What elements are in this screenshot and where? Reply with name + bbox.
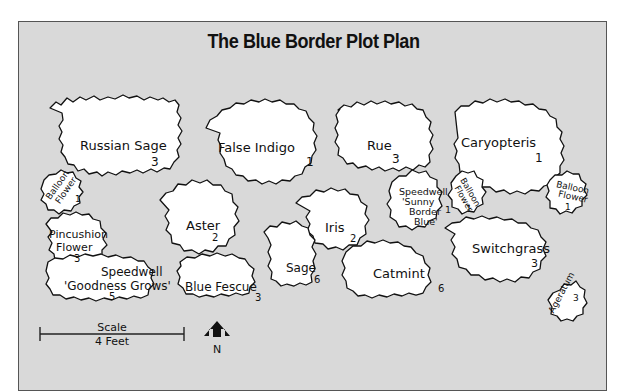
label-rue: Rue	[367, 138, 392, 153]
label-switchgrass: Switchgrass	[472, 241, 550, 256]
label-speedwell-sunny-4: Blue'	[414, 216, 438, 227]
compass-label: N	[213, 343, 221, 356]
count-switchgrass: 3	[531, 257, 538, 270]
label-iris: Iris	[325, 220, 345, 235]
plant-russian-sage	[50, 95, 182, 176]
north-arrow-shaft	[213, 328, 221, 337]
label-blue-fescue: Blue Fescue	[185, 280, 257, 294]
label-caryopteris: Caryopteris	[461, 135, 536, 150]
count-catmint: 6	[438, 283, 444, 294]
count-ageratum: 3	[573, 293, 579, 303]
count-balloon-flower-right: 1	[565, 202, 571, 212]
plant-aster	[160, 180, 239, 254]
label-pincushion-1: Pincushion	[49, 228, 108, 241]
scale-value: 4 Feet	[95, 335, 130, 348]
count-pincushion: 3	[74, 253, 80, 264]
count-balloon-flower-left: 1	[75, 194, 81, 204]
scale-label: Scale	[97, 321, 127, 334]
label-speedwell-goodness-1: Speedwell	[101, 265, 162, 279]
count-rue: 3	[392, 152, 400, 166]
count-russian-sage: 3	[151, 155, 159, 169]
count-sage: 6	[314, 274, 320, 285]
label-speedwell-goodness-2: 'Goodness Grows'	[64, 279, 171, 293]
label-aster: Aster	[186, 218, 221, 233]
label-false-indigo: False Indigo	[218, 140, 295, 155]
label-sage: Sage	[286, 261, 316, 275]
count-balloon-flower-mid: 1	[466, 204, 472, 214]
label-russian-sage: Russian Sage	[80, 138, 167, 153]
count-aster: 2	[212, 232, 218, 243]
plant-rue	[335, 101, 433, 171]
count-iris: 2	[350, 233, 356, 244]
count-false-indigo: 1	[306, 155, 314, 169]
count-blue-fescue: 3	[255, 292, 261, 303]
label-catmint: Catmint	[373, 266, 425, 281]
count-caryopteris: 1	[535, 151, 543, 165]
plant-sage	[264, 221, 316, 286]
count-speedwell-sunny: 1	[445, 204, 451, 215]
count-speedwell-goodness: 5	[109, 291, 115, 302]
